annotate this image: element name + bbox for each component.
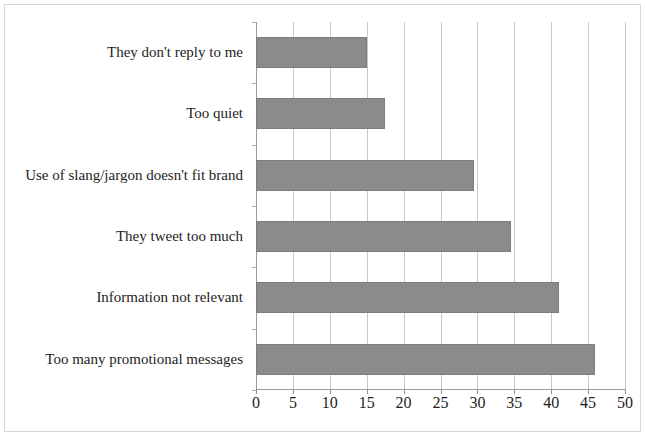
gridline	[367, 22, 368, 390]
category-label: They tweet too much	[116, 206, 243, 267]
x-axis-tick-label: 20	[396, 394, 412, 412]
x-axis-tick-label: 45	[580, 394, 596, 412]
gridline	[404, 22, 405, 390]
y-axis-tick	[252, 83, 256, 84]
x-axis-tick-label: 25	[433, 394, 449, 412]
x-axis-tick-label: 50	[617, 394, 633, 412]
plot-area	[256, 22, 625, 390]
bar	[256, 344, 595, 375]
category-label: Information not relevant	[96, 267, 243, 328]
category-axis-labels: They don't reply to meToo quietUse of sl…	[8, 22, 251, 390]
category-label: Use of slang/jargon doesn't fit brand	[25, 145, 243, 206]
gridline	[551, 22, 552, 390]
y-axis-tick	[252, 145, 256, 146]
gridline	[293, 22, 294, 390]
bar	[256, 37, 367, 68]
y-axis-line	[256, 22, 257, 390]
gridline	[477, 22, 478, 390]
category-label: Too many promotional messages	[45, 329, 243, 390]
y-axis-tick	[252, 206, 256, 207]
bar	[256, 221, 511, 252]
x-axis-tick-label: 35	[506, 394, 522, 412]
category-label: Too quiet	[186, 83, 243, 144]
bar	[256, 282, 559, 313]
gridline	[441, 22, 442, 390]
x-axis-tick-label: 40	[543, 394, 559, 412]
gridline	[514, 22, 515, 390]
gridline	[330, 22, 331, 390]
gridline	[625, 22, 626, 390]
category-label: They don't reply to me	[107, 22, 243, 83]
y-axis-tick	[252, 22, 256, 23]
x-axis-tick-label: 0	[252, 394, 260, 412]
x-axis-tick-label: 10	[322, 394, 338, 412]
bar-chart-figure: They don't reply to meToo quietUse of sl…	[0, 0, 645, 436]
y-axis-tick	[252, 329, 256, 330]
gridline	[588, 22, 589, 390]
x-axis-tick-label: 15	[359, 394, 375, 412]
bar	[256, 98, 385, 129]
x-axis-tick-labels: 05101520253035404550	[256, 394, 625, 420]
x-axis-tick-label: 5	[289, 394, 297, 412]
y-axis-tick	[252, 267, 256, 268]
x-axis-tick-label: 30	[469, 394, 485, 412]
bar	[256, 160, 474, 191]
